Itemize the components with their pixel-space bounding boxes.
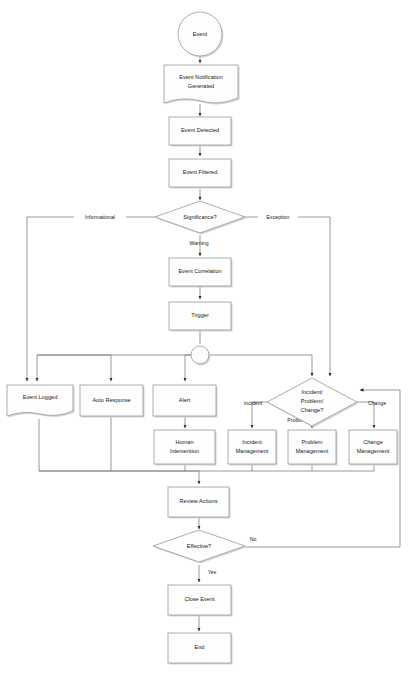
- node-event-logged[interactable]: Event Logged: [7, 385, 75, 418]
- logged-document[interactable]: [7, 385, 73, 416]
- node-significance[interactable]: Significance?: [155, 201, 247, 235]
- node-event-detected[interactable]: Event Detected: [169, 117, 233, 147]
- node-human-intervention[interactable]: Human Intervention: [154, 430, 217, 466]
- problemmgmt-box[interactable]: [288, 430, 336, 464]
- edge-significance-informational: [27, 217, 155, 381]
- flowchart-canvas: Informational Exception Warning Incident…: [0, 0, 415, 678]
- close-label: Close Event: [184, 596, 215, 602]
- changemgmt-box[interactable]: [349, 430, 397, 464]
- node-effective[interactable]: Effective?: [153, 530, 247, 564]
- node-event[interactable]: Event: [178, 12, 224, 58]
- node-junction[interactable]: [191, 346, 211, 366]
- effective-label: Effective?: [187, 543, 211, 549]
- detected-label: Event Detected: [181, 127, 219, 133]
- human-label-line1: Human: [175, 439, 193, 445]
- ipc-label-line2: Problem/: [301, 398, 324, 404]
- node-auto-response[interactable]: Auto Response: [80, 385, 145, 418]
- end-label: End: [195, 644, 205, 650]
- trigger-label: Trigger: [191, 312, 209, 318]
- human-label-line2: Intervention: [170, 448, 199, 454]
- node-end[interactable]: End: [168, 633, 233, 665]
- node-incident-management[interactable]: Incident Management: [228, 430, 278, 466]
- node-close-event[interactable]: Close Event: [168, 585, 233, 617]
- node-event-notification[interactable]: Event Notification Generated: [164, 65, 240, 105]
- junction-circle[interactable]: [191, 346, 209, 364]
- incidentmgmt-label-line2: Management: [236, 448, 269, 454]
- logged-label: Event Logged: [23, 394, 58, 400]
- alert-label: Alert: [179, 397, 191, 403]
- node-alert[interactable]: Alert: [153, 385, 218, 418]
- event-label: Event: [193, 31, 208, 37]
- node-event-correlation[interactable]: Event Correlation: [169, 258, 233, 288]
- changemgmt-label-line1: Change: [363, 439, 383, 445]
- human-box[interactable]: [154, 430, 215, 464]
- node-review-actions[interactable]: Review Actions: [168, 487, 231, 519]
- node-change-management[interactable]: Change Management: [349, 430, 399, 466]
- correlation-label: Event Correlation: [178, 268, 221, 274]
- edge-junction-bus-alert: [185, 355, 191, 381]
- significance-label: Significance?: [183, 214, 216, 220]
- node-problem-management[interactable]: Problem Management: [288, 430, 338, 466]
- edge-label-warning: Warning: [189, 240, 208, 246]
- incidentmgmt-box[interactable]: [228, 430, 276, 464]
- review-label: Review Actions: [180, 498, 218, 504]
- edge-junction-bus-autoresponse: [37, 355, 111, 381]
- changemgmt-label-line2: Management: [357, 448, 390, 454]
- problemmgmt-label-line2: Management: [296, 448, 329, 454]
- ipc-label-line3: Change?: [301, 407, 324, 413]
- edge-significance-exception: [245, 217, 330, 376]
- edge-label-exception: Exception: [267, 214, 290, 220]
- notification-label-line1: Event Notification: [179, 74, 223, 80]
- incidentmgmt-label-line1: Incident: [242, 439, 262, 445]
- edge-label-yes: Yes: [208, 569, 217, 575]
- problemmgmt-label-line1: Problem: [302, 439, 323, 445]
- edge-label-informational: Informational: [85, 214, 115, 220]
- edge-junction-bus-ipc: [209, 355, 312, 376]
- edge-label-no: No: [250, 536, 257, 542]
- edge-junction-bus-left: [37, 355, 191, 381]
- flowchart-diagram: Informational Exception Warning Incident…: [0, 0, 415, 678]
- node-incident-problem-change[interactable]: Incident/ Problem/ Change?: [267, 378, 359, 428]
- node-event-filtered[interactable]: Event Filtered: [169, 159, 233, 189]
- autoresponse-label: Auto Response: [92, 397, 130, 403]
- edge-label-incident: Incident: [244, 400, 263, 406]
- ipc-label-line1: Incident/: [301, 389, 323, 395]
- node-trigger[interactable]: Trigger: [169, 302, 233, 332]
- filtered-label: Event Filtered: [183, 169, 218, 175]
- notification-label-line2: Generated: [188, 83, 214, 89]
- edge-label-change: Change: [368, 400, 386, 406]
